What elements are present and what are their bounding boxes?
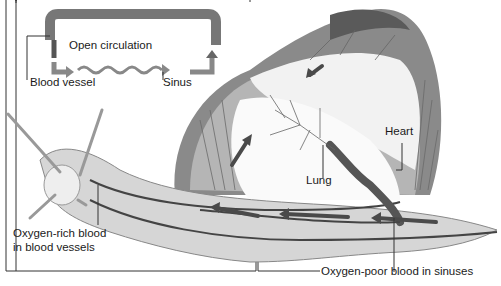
inset-title: Open circulation <box>69 39 152 52</box>
label-oxygen-rich-2: in blood vessels <box>13 241 95 254</box>
label-heart: Heart <box>385 125 413 138</box>
label-lung: Lung <box>306 174 332 187</box>
label-blood-vessel: Blood vessel <box>30 76 95 89</box>
label-oxygen-poor: Oxygen-poor blood in sinuses <box>321 265 473 278</box>
label-oxygen-rich-1: Oxygen-rich blood <box>13 227 106 240</box>
label-sinus: Sinus <box>163 76 192 89</box>
